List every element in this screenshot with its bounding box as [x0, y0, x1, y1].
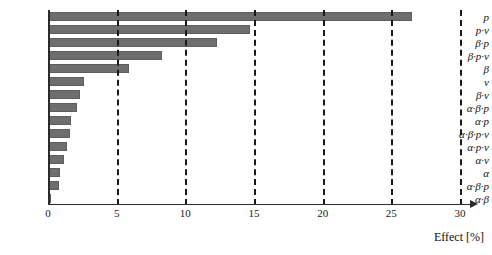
effect-bar-chart: pp·vβ·pβ·p·vβvβ·vα·β·pα·pα·β·p·vα·p·vα·v…	[0, 0, 492, 255]
x-axis-tick-label: 15	[249, 207, 260, 219]
x-axis-spine	[48, 204, 473, 205]
x-axis-tick-label: 5	[114, 207, 120, 219]
y-axis-label: β	[446, 63, 492, 75]
y-axis-label: β·p	[446, 37, 492, 49]
y-axis-label: α·β	[446, 193, 492, 205]
gridline	[117, 10, 119, 205]
gridline	[323, 10, 325, 205]
y-axis-spine	[48, 10, 50, 205]
y-axis-label: α	[446, 167, 492, 179]
y-axis-label: α·β·p	[446, 102, 492, 114]
gridline	[391, 10, 393, 205]
bar	[48, 38, 217, 47]
gridline	[185, 10, 187, 205]
y-axis-label: α·p	[446, 115, 492, 127]
bar	[48, 129, 70, 138]
gridline	[254, 10, 256, 205]
x-axis-tick-label: 25	[386, 207, 397, 219]
y-axis-label: p·v	[446, 24, 492, 36]
x-axis-tick-label: 0	[45, 207, 51, 219]
bar	[48, 142, 67, 151]
bar	[48, 51, 162, 60]
y-axis-label: α·p·v	[446, 141, 492, 153]
bar	[48, 90, 80, 99]
x-axis-tick-label: 10	[180, 207, 191, 219]
x-axis-tick-label: 20	[317, 207, 328, 219]
y-axis-label: p	[446, 11, 492, 23]
bar	[48, 103, 77, 112]
bar	[48, 155, 64, 164]
y-axis-label: α·v	[446, 154, 492, 166]
y-axis-label: β·v	[446, 89, 492, 101]
bar	[48, 25, 250, 34]
y-axis-label: α·β·p	[446, 180, 492, 192]
bar	[48, 12, 412, 21]
bar	[48, 116, 71, 125]
y-axis-label: α·β·p·v	[446, 128, 492, 140]
bar	[48, 77, 84, 86]
y-axis-label: β·p·v	[446, 50, 492, 62]
x-axis-tick-label: 30	[455, 207, 466, 219]
x-axis-title: Effect [%]	[434, 230, 484, 245]
y-axis-label: v	[446, 76, 492, 88]
